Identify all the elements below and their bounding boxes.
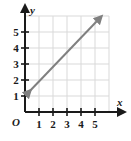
x-axis-label: x	[116, 96, 123, 108]
y-tick-label: 4	[13, 42, 19, 54]
plot-area: y x O 1 2 3 4 5 1 2 3 4 5	[0, 0, 131, 141]
origin-label: O	[12, 116, 20, 128]
y-tick-label: 2	[13, 74, 19, 86]
y-tick-label: 1	[13, 90, 19, 102]
y-tick-label: 3	[13, 58, 19, 70]
x-tick-label: 2	[50, 118, 56, 130]
y-axis-label: y	[28, 4, 35, 16]
y-tick-label: 5	[13, 26, 19, 38]
x-tick-label: 1	[36, 118, 42, 130]
x-tick-label: 4	[78, 118, 84, 130]
x-tick-label: 3	[64, 118, 70, 130]
coordinate-plane-graph: y x O 1 2 3 4 5 1 2 3 4 5	[0, 0, 131, 141]
x-tick-label: 5	[92, 118, 98, 130]
